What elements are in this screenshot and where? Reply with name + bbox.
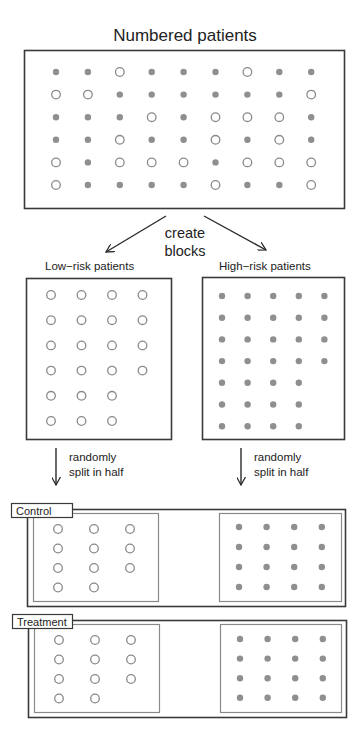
low-risk-patient-icon: [55, 655, 64, 664]
low-risk-patient-icon: [127, 655, 136, 664]
high-risk-patient-icon: [292, 636, 298, 642]
high-risk-patient-icon: [291, 584, 297, 590]
high-risk-patient-icon: [244, 380, 250, 386]
low-risk-patient-icon: [275, 113, 284, 122]
low-risk-patient-icon: [77, 392, 86, 401]
low-risk-patient-icon: [275, 158, 284, 167]
low-risk-patient-icon: [77, 417, 86, 426]
low-risk-patient-icon: [127, 675, 136, 684]
low-risk-patient-icon: [77, 366, 86, 375]
low-risk-patient-icon: [90, 525, 99, 534]
low-risk-patient-icon: [108, 291, 117, 300]
high-risk-patient-icon: [308, 137, 314, 143]
low-risk-patient-icon: [116, 68, 125, 77]
high-risk-patient-icon: [291, 544, 297, 550]
high-risk-patient-icon: [117, 182, 123, 188]
high-risk-patient-icon: [237, 695, 243, 701]
high-risk-patient-icon: [219, 293, 225, 299]
high-risk-patient-icon: [219, 358, 225, 364]
high-risk-patient-icon: [219, 380, 225, 386]
low-risk-patient-icon: [307, 90, 316, 99]
high-risk-grid: [219, 293, 328, 430]
low-risk-patient-icon: [126, 525, 135, 534]
low-risk-patient-icon: [138, 341, 147, 350]
high-risk-patient-icon: [276, 69, 282, 75]
high-risk-patient-icon: [292, 655, 298, 661]
split-left-line2: split in half: [69, 466, 124, 478]
low-risk-patient-icon: [91, 655, 100, 664]
high-risk-patient-icon: [270, 423, 276, 429]
arrow-right-icon: [204, 216, 266, 250]
high-risk-patient-icon: [291, 524, 297, 530]
high-risk-patient-icon: [320, 695, 326, 701]
low-risk-patient-icon: [116, 158, 125, 167]
high-risk-patient-icon: [219, 315, 225, 321]
high-risk-patient-icon: [244, 182, 250, 188]
high-risk-block: High−risk patients: [203, 260, 345, 440]
high-risk-patient-icon: [270, 358, 276, 364]
low-risk-grid: [47, 291, 147, 426]
high-risk-patient-icon: [320, 655, 326, 661]
high-risk-patient-icon: [296, 423, 302, 429]
high-risk-patient-icon: [263, 584, 269, 590]
control-low-risk-grid: [54, 525, 135, 592]
high-risk-patient-icon: [149, 91, 155, 97]
high-risk-patient-icon: [53, 69, 59, 75]
low-risk-patient-icon: [138, 291, 147, 300]
low-risk-patient-icon: [243, 158, 252, 167]
low-risk-patient-icon: [52, 90, 61, 99]
low-risk-patient-icon: [138, 366, 147, 375]
high-risk-patient-icon: [319, 524, 325, 530]
high-risk-patient-icon: [321, 358, 327, 364]
high-risk-patient-icon: [291, 564, 297, 570]
control-label: Control: [16, 505, 51, 517]
low-risk-patient-icon: [77, 291, 86, 300]
high-risk-patient-icon: [296, 315, 302, 321]
low-risk-patient-icon: [108, 316, 117, 325]
low-risk-patient-icon: [211, 136, 220, 145]
split-right-line2: split in half: [254, 466, 309, 478]
high-risk-patient-icon: [117, 91, 123, 97]
high-risk-patient-icon: [264, 695, 270, 701]
high-risk-patient-icon: [264, 655, 270, 661]
split-right: randomly split in half: [241, 448, 309, 485]
high-risk-patient-icon: [219, 336, 225, 342]
high-risk-patient-icon: [236, 524, 242, 530]
low-risk-patient-icon: [179, 158, 188, 167]
low-risk-patient-icon: [52, 181, 61, 190]
low-risk-patient-icon: [54, 544, 63, 553]
arrow-left-icon: [106, 216, 166, 252]
high-risk-patient-icon: [212, 91, 218, 97]
split-left: randomly split in half: [56, 448, 124, 485]
high-risk-patient-icon: [263, 564, 269, 570]
high-risk-patient-icon: [149, 69, 155, 75]
split-right-line1: randomly: [254, 451, 302, 463]
low-risk-patient-icon: [147, 113, 156, 122]
high-risk-patient-icon: [296, 293, 302, 299]
high-risk-patient-icon: [85, 159, 91, 165]
high-risk-patient-icon: [237, 675, 243, 681]
high-risk-patient-icon: [85, 69, 91, 75]
high-risk-patient-icon: [319, 564, 325, 570]
low-risk-patient-icon: [52, 158, 61, 167]
high-risk-patient-icon: [244, 293, 250, 299]
high-risk-patient-icon: [180, 137, 186, 143]
high-risk-patient-icon: [219, 401, 225, 407]
low-risk-patient-icon: [116, 136, 125, 145]
high-risk-patient-icon: [236, 544, 242, 550]
low-risk-patient-icon: [108, 417, 117, 426]
high-risk-patient-icon: [244, 137, 250, 143]
low-risk-label: Low−risk patients: [45, 260, 134, 272]
create-blocks-line1: create: [165, 225, 205, 241]
high-risk-patient-icon: [237, 636, 243, 642]
high-risk-patient-icon: [85, 137, 91, 143]
high-risk-patient-icon: [180, 114, 186, 120]
low-risk-patient-icon: [91, 675, 100, 684]
high-risk-patient-icon: [244, 91, 250, 97]
low-risk-patient-icon: [90, 544, 99, 553]
high-risk-patient-icon: [236, 564, 242, 570]
high-risk-patient-icon: [308, 114, 314, 120]
high-risk-patient-icon: [296, 401, 302, 407]
treatment-low-risk-grid: [55, 636, 136, 703]
patients-grid: [52, 68, 316, 190]
